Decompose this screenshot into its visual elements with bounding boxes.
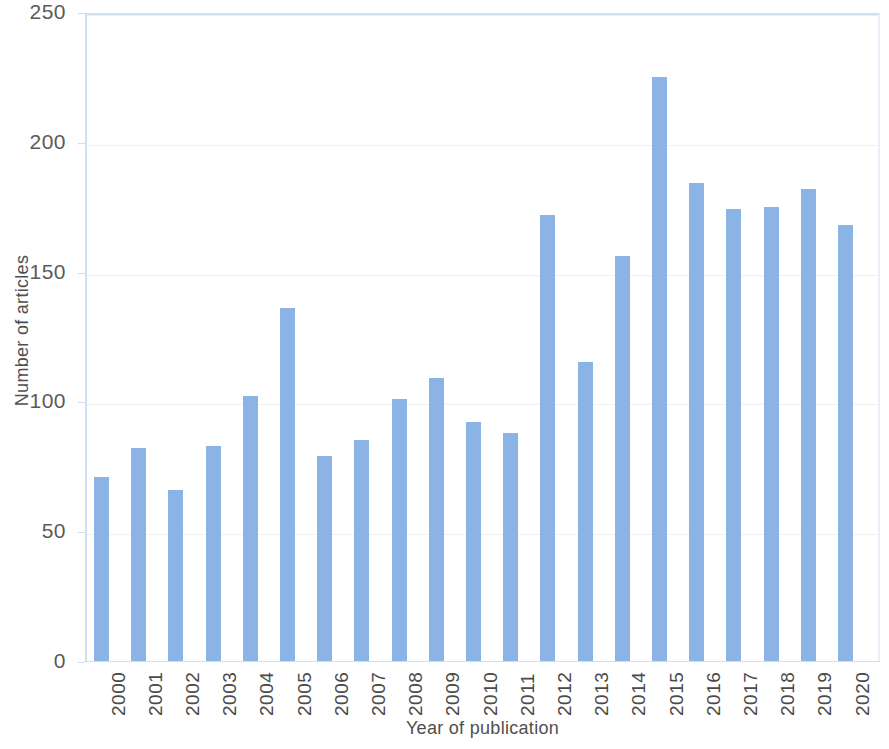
bar — [317, 456, 332, 661]
bar — [392, 399, 407, 661]
bar — [466, 422, 481, 661]
bar — [652, 77, 667, 661]
bar — [280, 308, 295, 661]
y-axis-tick-label: 250 — [8, 0, 66, 24]
x-axis-title: Year of publication — [85, 718, 880, 739]
bar — [615, 256, 630, 661]
x-axis-tick-label: 2001 — [145, 646, 167, 716]
bar — [206, 446, 221, 661]
bar — [764, 207, 779, 661]
bar — [503, 433, 518, 661]
bar — [94, 477, 109, 661]
bar — [540, 215, 555, 662]
bar-chart-figure: Number of articles 050100150200250 20002… — [0, 0, 889, 749]
y-axis-tick-mark — [78, 662, 85, 663]
x-axis-tick-label: 2007 — [368, 646, 390, 716]
y-axis-tick-mark — [78, 402, 85, 403]
y-axis: Number of articles 050100150200250 — [0, 0, 85, 680]
bar — [168, 490, 183, 661]
x-axis-tick-label: 2019 — [814, 646, 836, 716]
y-axis-tick-mark — [78, 532, 85, 533]
x-axis-tick-label: 2015 — [666, 646, 688, 716]
x-axis-tick-label: 2005 — [294, 646, 316, 716]
x-axis-tick-label: 2004 — [256, 646, 278, 716]
bar — [578, 362, 593, 661]
bar — [838, 225, 853, 661]
bar — [689, 183, 704, 661]
plot-area — [85, 13, 880, 662]
x-axis-tick-label: 2017 — [740, 646, 762, 716]
y-axis-tick-mark — [78, 13, 85, 14]
x-axis-tick-label: 2006 — [331, 646, 353, 716]
x-axis-tick-label: 2011 — [517, 646, 539, 716]
x-axis-tick-label: 2010 — [480, 646, 502, 716]
y-axis-tick-mark — [78, 273, 85, 274]
x-axis-tick-label: 2016 — [703, 646, 725, 716]
x-axis-tick-label: 2018 — [777, 646, 799, 716]
x-axis-tick-label: 2000 — [108, 646, 130, 716]
bar — [243, 396, 258, 661]
x-axis-tick-label: 2014 — [628, 646, 650, 716]
bar — [131, 448, 146, 661]
x-axis-tick-label: 2020 — [852, 646, 874, 716]
bar — [354, 440, 369, 661]
bar — [726, 209, 741, 661]
y-axis-tick-mark — [78, 143, 85, 144]
x-axis-tick-label: 2013 — [591, 646, 613, 716]
bar-series — [87, 15, 878, 661]
x-axis-tick-label: 2009 — [442, 646, 464, 716]
y-axis-tick-label: 150 — [8, 260, 66, 284]
y-axis-tick-label: 200 — [8, 130, 66, 154]
bar — [429, 378, 444, 661]
y-axis-tick-label: 0 — [8, 649, 66, 673]
x-axis-tick-label: 2002 — [182, 646, 204, 716]
y-axis-tick-label: 100 — [8, 389, 66, 413]
y-axis-tick-label: 50 — [8, 519, 66, 543]
bar — [801, 189, 816, 661]
x-axis-tick-label: 2003 — [219, 646, 241, 716]
x-axis-tick-label: 2008 — [405, 646, 427, 716]
x-axis-tick-label: 2012 — [554, 646, 576, 716]
